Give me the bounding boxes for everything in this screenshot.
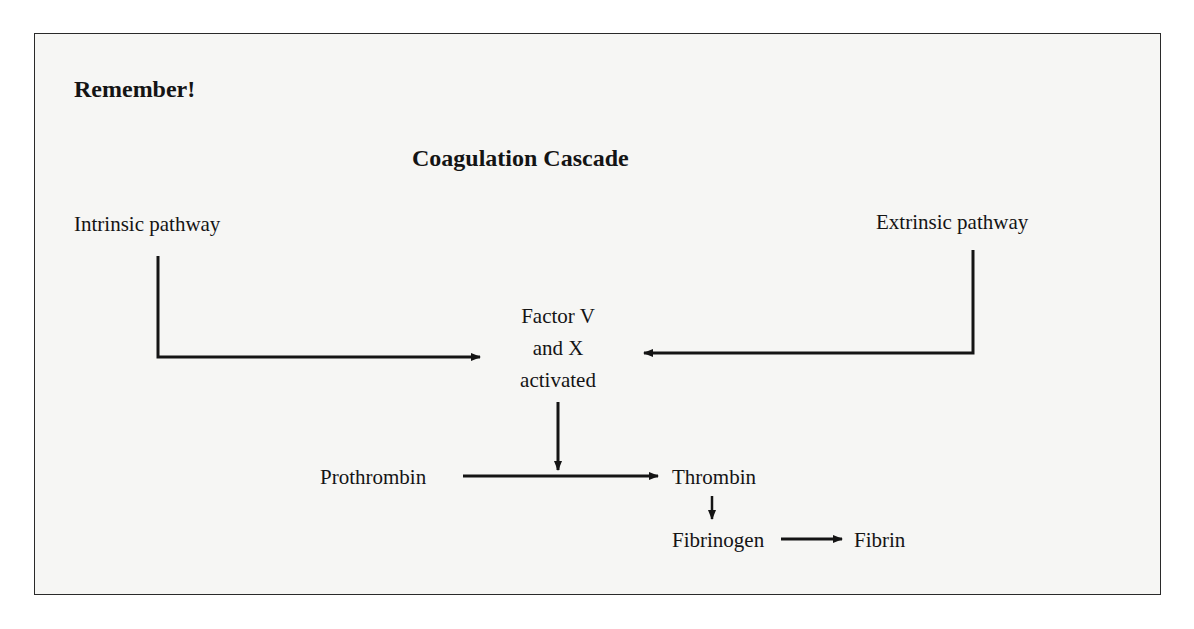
intrinsic-to-factor-arrow <box>158 256 480 357</box>
arrows-layer <box>0 0 1194 629</box>
extrinsic-to-factor-arrow <box>644 250 973 353</box>
